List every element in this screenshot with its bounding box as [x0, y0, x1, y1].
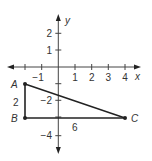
- triangle-abc: [23, 82, 127, 120]
- point-c-dot-icon: [123, 116, 127, 120]
- x-axis-left-arrow-icon: [7, 65, 14, 70]
- point-c-label: C: [131, 113, 139, 124]
- x-tick-label: 3: [106, 72, 112, 83]
- point-b-label: B: [11, 113, 18, 124]
- coordinate-plane: x y −1 1 2 3 4 2 1 −2 −4 A B C 2 6: [0, 0, 152, 161]
- side-ab-length-label: 2: [13, 97, 19, 108]
- x-axis-right-arrow-icon: [134, 65, 141, 70]
- point-a-label: A: [10, 79, 18, 90]
- y-axis-down-arrow-icon: [56, 147, 61, 154]
- y-axis-up-arrow-icon: [56, 14, 61, 21]
- x-tick-label: 4: [122, 72, 128, 83]
- y-axis-label: y: [64, 15, 71, 26]
- y-tick-label: −2: [41, 95, 53, 106]
- x-axis-label: x: [134, 71, 141, 82]
- x-tick-label: −1: [32, 72, 44, 83]
- x-axis: [7, 64, 141, 70]
- x-tick-label: 2: [89, 72, 95, 83]
- y-axis: [55, 14, 61, 154]
- y-tick-label: 1: [46, 45, 52, 56]
- y-tick-label: 2: [46, 28, 52, 39]
- y-tick-label: −4: [41, 130, 53, 141]
- point-b-dot-icon: [23, 116, 27, 120]
- side-bc-length-label: 6: [72, 122, 78, 133]
- point-a-dot-icon: [23, 82, 27, 86]
- x-tick-label: 1: [72, 72, 78, 83]
